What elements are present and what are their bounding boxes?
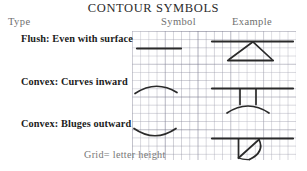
- grid-caption: Grid= letter height: [84, 149, 166, 160]
- row-label-convex-inward: Convex: Curves inward: [21, 76, 133, 88]
- column-header-symbol: Symbol: [161, 16, 196, 27]
- measurement-grid: [132, 31, 296, 160]
- contour-symbols-figure: CONTOUR SYMBOLS Type Symbol Example Flus…: [0, 0, 307, 171]
- figure-title: CONTOUR SYMBOLS: [0, 1, 307, 16]
- column-header-example: Example: [232, 16, 272, 27]
- row-label-flush: Flush: Even with surface: [21, 33, 133, 45]
- column-header-type: Type: [8, 16, 30, 27]
- grid-paper-texture: [132, 31, 296, 160]
- grid-major-lines: [132, 31, 296, 160]
- row-label-convex-outward: Convex: Bluges outward: [21, 118, 133, 130]
